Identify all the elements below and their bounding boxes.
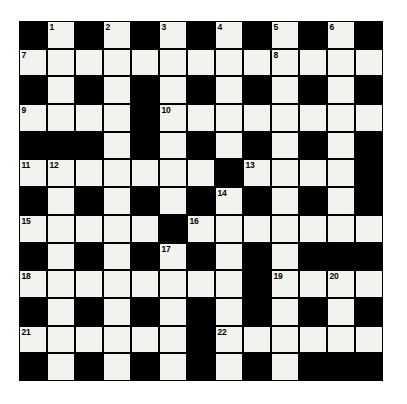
letter-cell[interactable] — [47, 187, 75, 215]
letter-cell[interactable] — [215, 215, 243, 243]
letter-cell[interactable] — [271, 353, 299, 381]
letter-cell[interactable] — [215, 298, 243, 326]
letter-cell[interactable] — [215, 270, 243, 298]
letter-cell[interactable] — [47, 243, 75, 271]
letter-cell[interactable] — [103, 159, 131, 187]
letter-cell[interactable] — [159, 270, 187, 298]
letter-cell[interactable]: 15 — [19, 215, 47, 243]
letter-cell[interactable] — [187, 270, 215, 298]
letter-cell[interactable] — [47, 326, 75, 354]
letter-cell[interactable] — [215, 243, 243, 271]
letter-cell[interactable] — [103, 187, 131, 215]
letter-cell[interactable] — [271, 243, 299, 271]
letter-cell[interactable] — [187, 49, 215, 77]
letter-cell[interactable]: 16 — [187, 215, 215, 243]
letter-cell[interactable] — [271, 326, 299, 354]
letter-cell[interactable] — [47, 270, 75, 298]
letter-cell[interactable]: 19 — [271, 270, 299, 298]
letter-cell[interactable]: 1 — [47, 21, 75, 49]
letter-cell[interactable] — [243, 104, 271, 132]
letter-cell[interactable] — [75, 159, 103, 187]
letter-cell[interactable]: 5 — [271, 21, 299, 49]
letter-cell[interactable] — [243, 326, 271, 354]
letter-cell[interactable]: 20 — [327, 270, 355, 298]
crossword-grid[interactable]: 12345678910111213141516171819202122 — [19, 21, 383, 381]
letter-cell[interactable] — [47, 298, 75, 326]
letter-cell[interactable] — [131, 159, 159, 187]
letter-cell[interactable]: 7 — [19, 49, 47, 77]
letter-cell[interactable] — [355, 326, 383, 354]
letter-cell[interactable]: 2 — [103, 21, 131, 49]
letter-cell[interactable] — [355, 104, 383, 132]
letter-cell[interactable] — [159, 187, 187, 215]
letter-cell[interactable] — [299, 159, 327, 187]
letter-cell[interactable] — [103, 270, 131, 298]
letter-cell[interactable] — [75, 270, 103, 298]
letter-cell[interactable] — [271, 159, 299, 187]
letter-cell[interactable] — [271, 215, 299, 243]
letter-cell[interactable]: 17 — [159, 243, 187, 271]
letter-cell[interactable] — [47, 353, 75, 381]
letter-cell[interactable] — [215, 353, 243, 381]
letter-cell[interactable] — [271, 104, 299, 132]
letter-cell[interactable] — [103, 326, 131, 354]
letter-cell[interactable] — [271, 132, 299, 160]
letter-cell[interactable] — [299, 104, 327, 132]
letter-cell[interactable] — [103, 353, 131, 381]
letter-cell[interactable] — [327, 326, 355, 354]
letter-cell[interactable] — [47, 76, 75, 104]
letter-cell[interactable] — [187, 159, 215, 187]
letter-cell[interactable] — [243, 49, 271, 77]
letter-cell[interactable] — [355, 49, 383, 77]
letter-cell[interactable] — [47, 49, 75, 77]
letter-cell[interactable] — [355, 215, 383, 243]
letter-cell[interactable] — [131, 326, 159, 354]
letter-cell[interactable] — [271, 187, 299, 215]
letter-cell[interactable] — [131, 49, 159, 77]
letter-cell[interactable]: 22 — [215, 326, 243, 354]
letter-cell[interactable] — [159, 49, 187, 77]
letter-cell[interactable] — [47, 104, 75, 132]
letter-cell[interactable]: 10 — [159, 104, 187, 132]
letter-cell[interactable] — [327, 49, 355, 77]
letter-cell[interactable] — [355, 270, 383, 298]
letter-cell[interactable]: 6 — [327, 21, 355, 49]
letter-cell[interactable] — [159, 353, 187, 381]
letter-cell[interactable] — [47, 215, 75, 243]
letter-cell[interactable]: 8 — [271, 49, 299, 77]
letter-cell[interactable] — [159, 159, 187, 187]
letter-cell[interactable] — [75, 49, 103, 77]
letter-cell[interactable] — [215, 104, 243, 132]
letter-cell[interactable] — [103, 243, 131, 271]
letter-cell[interactable] — [327, 104, 355, 132]
letter-cell[interactable] — [327, 298, 355, 326]
letter-cell[interactable] — [159, 76, 187, 104]
letter-cell[interactable] — [159, 298, 187, 326]
letter-cell[interactable] — [299, 326, 327, 354]
letter-cell[interactable]: 18 — [19, 270, 47, 298]
letter-cell[interactable] — [159, 132, 187, 160]
letter-cell[interactable]: 21 — [19, 326, 47, 354]
letter-cell[interactable] — [327, 187, 355, 215]
letter-cell[interactable] — [103, 132, 131, 160]
letter-cell[interactable] — [131, 215, 159, 243]
letter-cell[interactable] — [159, 326, 187, 354]
letter-cell[interactable]: 12 — [47, 159, 75, 187]
letter-cell[interactable] — [271, 298, 299, 326]
letter-cell[interactable]: 9 — [19, 104, 47, 132]
letter-cell[interactable] — [327, 132, 355, 160]
letter-cell[interactable]: 14 — [215, 187, 243, 215]
letter-cell[interactable] — [103, 104, 131, 132]
letter-cell[interactable]: 11 — [19, 159, 47, 187]
letter-cell[interactable] — [75, 215, 103, 243]
letter-cell[interactable] — [327, 215, 355, 243]
letter-cell[interactable] — [299, 215, 327, 243]
letter-cell[interactable] — [327, 76, 355, 104]
letter-cell[interactable] — [243, 215, 271, 243]
letter-cell[interactable] — [271, 76, 299, 104]
letter-cell[interactable]: 3 — [159, 21, 187, 49]
letter-cell[interactable] — [131, 270, 159, 298]
letter-cell[interactable]: 13 — [243, 159, 271, 187]
letter-cell[interactable] — [103, 215, 131, 243]
letter-cell[interactable] — [187, 104, 215, 132]
